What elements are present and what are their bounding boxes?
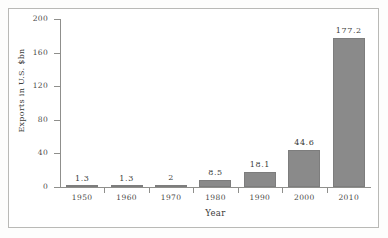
y-axis-title: Exports in U.S. $bn: [17, 31, 26, 151]
y-tick-mark: [54, 187, 61, 188]
x-tick-mark: [104, 188, 105, 193]
bar: [111, 185, 143, 187]
y-tick-label: 40: [8, 149, 48, 157]
figure-canvas: 04080120160200 1.31.328.518.144.6177.2 1…: [0, 0, 388, 238]
y-tick-label: 160: [8, 49, 48, 57]
x-tick-mark: [327, 188, 328, 193]
x-axis-title: Year: [60, 208, 371, 218]
bar-series: 1.31.328.518.144.6177.2: [60, 19, 371, 187]
x-tick-mark: [193, 188, 194, 193]
bar-slot: 44.6: [282, 19, 326, 187]
bar-value-label: 44.6: [274, 139, 334, 147]
bar-value-label: 177.2: [319, 27, 379, 35]
bar-slot: 1.3: [104, 19, 148, 187]
x-axis-spine: [60, 187, 371, 188]
bar: [155, 185, 187, 187]
bar: [333, 38, 365, 187]
y-tick-label: 200: [8, 15, 48, 23]
bar-slot: 18.1: [238, 19, 282, 187]
bar-slot: 1.3: [60, 19, 104, 187]
bar: [244, 172, 276, 187]
bar: [288, 150, 320, 187]
x-tick-label: 2010: [319, 194, 379, 202]
x-tick-mark: [282, 188, 283, 193]
x-tick-mark: [238, 188, 239, 193]
bar-slot: 2: [149, 19, 193, 187]
bar: [66, 185, 98, 187]
bar-value-label: 8.5: [185, 169, 245, 177]
bar-value-label: 18.1: [230, 161, 290, 169]
bar-slot: 177.2: [327, 19, 371, 187]
x-tick-mark: [149, 188, 150, 193]
y-tick-label: 0: [8, 183, 48, 191]
bar: [199, 180, 231, 187]
y-tick-label: 120: [8, 82, 48, 90]
y-tick-label: 80: [8, 116, 48, 124]
